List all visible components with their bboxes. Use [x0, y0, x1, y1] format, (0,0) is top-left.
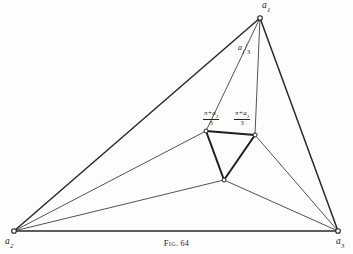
- vertex-marker-morley-right: [253, 133, 257, 137]
- figure-container: a1 a2 a3 a1/3 π+a2 3 π+a3 3 Fig. 64: [0, 0, 353, 254]
- angle-label-right-inner: π+a3 3: [234, 110, 250, 127]
- trisector-a2-left: [14, 131, 206, 231]
- caption-number: 64: [181, 239, 190, 248]
- vertex-marker-morley-left: [204, 129, 208, 133]
- vertex-marker-morley-bottom: [222, 178, 226, 182]
- morley-triangle-outline: [206, 131, 255, 180]
- vertex-label-a1: a1: [262, 1, 270, 13]
- vertex-marker-a2: [12, 229, 17, 234]
- outer-triangle-edges: [14, 18, 338, 231]
- edge-a3-a1: [260, 18, 338, 231]
- geometry-drawing: [0, 0, 353, 254]
- trisector-a2-bottom: [14, 180, 224, 231]
- vertex-marker-a1: [258, 16, 263, 21]
- figure-caption: Fig. 64: [0, 238, 353, 248]
- fraction-right-inner: π+a3 3: [234, 110, 250, 127]
- morley-triangle: [206, 131, 255, 180]
- edge-a1-a2: [14, 18, 260, 231]
- angle-label-left-inner: π+a2 3: [203, 110, 219, 127]
- trisector-a1-right: [255, 18, 260, 135]
- trisector-a3-bottom: [224, 180, 338, 231]
- fraction-left-inner: π+a2 3: [203, 110, 219, 127]
- vertex-markers: [12, 16, 341, 234]
- vertex-marker-a3: [336, 229, 341, 234]
- trisectors-from-a2: [14, 131, 224, 231]
- caption-prefix: Fig.: [164, 238, 178, 248]
- angle-label-apex: a1/3: [238, 44, 250, 54]
- trisector-a3-right: [255, 135, 338, 231]
